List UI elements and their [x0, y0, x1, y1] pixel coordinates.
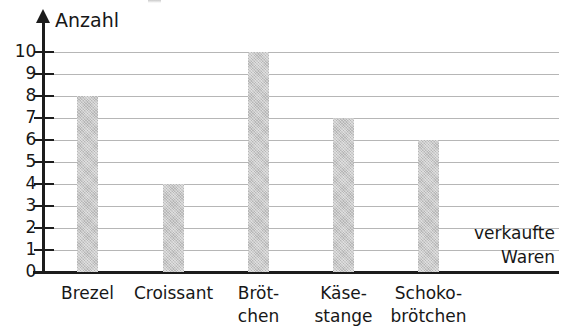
- y-axis-tick-label: 7: [0, 109, 36, 126]
- y-axis-tick-label: 1: [0, 241, 36, 258]
- y-axis-tick: [34, 161, 54, 163]
- y-axis-tick-label: 0: [0, 263, 36, 280]
- x-axis-line: [33, 271, 559, 274]
- cropped-text-artifact: [148, 0, 161, 3]
- y-axis-tick: [34, 139, 54, 141]
- bar: [248, 52, 269, 272]
- y-axis-tick-label: 9: [0, 65, 36, 82]
- y-axis-line: [42, 20, 45, 274]
- y-axis-tick: [34, 95, 54, 97]
- y-axis-tick-label: 6: [0, 131, 36, 148]
- y-axis-tick: [34, 117, 54, 119]
- x-axis-category-label: Schoko-brötchen: [369, 282, 489, 328]
- x-axis-title-line: verkaufte: [375, 221, 555, 245]
- y-axis-tick: [34, 227, 54, 229]
- gridline: [43, 74, 559, 75]
- y-axis-title: Anzahl: [55, 10, 119, 30]
- y-axis-arrow-icon: [36, 9, 50, 23]
- y-axis-tick: [34, 249, 54, 251]
- y-axis-tick-label: 3: [0, 197, 36, 214]
- x-axis-category-label-line: brötchen: [369, 305, 489, 328]
- x-axis-title: verkaufteWaren: [375, 221, 555, 269]
- gridline: [43, 206, 559, 207]
- y-axis-tick: [34, 183, 54, 185]
- y-axis-tick: [34, 205, 54, 207]
- y-axis-tick: [34, 73, 54, 75]
- x-axis-title-line: Waren: [375, 245, 555, 269]
- y-axis-tick-label: 4: [0, 175, 36, 192]
- x-axis-category-label-line: Schoko-: [369, 282, 489, 305]
- y-axis-tick-label: 10: [0, 43, 36, 60]
- y-axis-tick-label: 2: [0, 219, 36, 236]
- gridline: [43, 140, 559, 141]
- gridline: [43, 162, 559, 163]
- gridline: [43, 118, 559, 119]
- bar: [163, 184, 184, 272]
- gridline: [43, 96, 559, 97]
- bar: [333, 118, 354, 272]
- bar-chart: 109876543210 BrezelCroissantBröt-chenKäs…: [0, 0, 561, 336]
- gridline: [43, 184, 559, 185]
- y-axis-tick: [34, 51, 54, 53]
- y-axis-tick-label: 8: [0, 87, 36, 104]
- gridline: [43, 52, 559, 53]
- y-axis-tick-label: 5: [0, 153, 36, 170]
- bar: [77, 96, 98, 272]
